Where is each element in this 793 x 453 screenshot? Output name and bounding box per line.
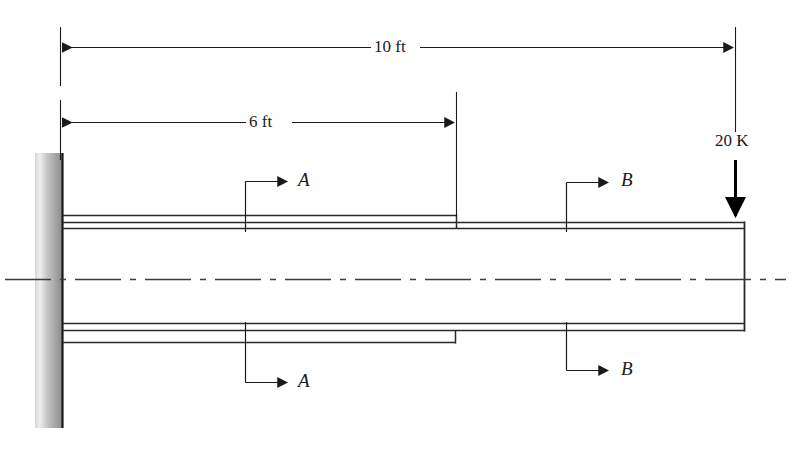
section-line-a xyxy=(246,182,288,383)
section-label-b-top: B xyxy=(619,170,635,189)
section-label-a-bottom: A xyxy=(296,371,312,390)
dimension-6ft xyxy=(61,92,457,216)
dimension-label-6ft: 6 ft xyxy=(246,113,275,130)
figure-canvas xyxy=(0,0,793,453)
wall-hatch-block xyxy=(35,153,62,428)
load-label-20k: 20 K xyxy=(712,132,752,149)
section-label-b-bottom: B xyxy=(619,359,635,378)
dimension-label-10ft: 10 ft xyxy=(371,38,409,55)
section-line-b xyxy=(567,183,609,371)
section-label-a-top: A xyxy=(296,170,312,189)
fixed-wall-support xyxy=(35,153,63,428)
cantilever-beam-figure: 10 ft 6 ft 20 K A A B B xyxy=(0,0,793,453)
